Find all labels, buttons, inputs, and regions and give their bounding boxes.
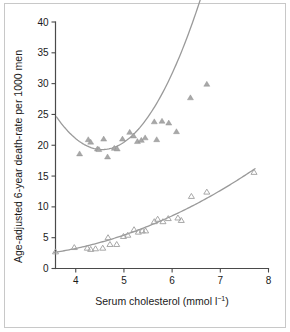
data-point-marker [173,129,179,134]
data-point-marker [127,129,133,134]
data-point-marker [101,136,107,141]
x-tick-label: 8 [266,275,272,286]
data-points-chd [52,169,257,253]
scatter-chart: 0510152025303540 45678 Age-adjusted 6-ye… [0,0,290,332]
y-tick-label: 5 [43,232,49,243]
data-point-marker [119,136,125,141]
y-tick-label: 0 [43,263,49,274]
data-points-all-cause [77,81,210,159]
x-tick-label: 5 [121,275,127,286]
data-point-marker [155,216,161,221]
data-point-marker [159,118,165,123]
x-tick-label: 7 [218,275,224,286]
data-point-marker [107,242,113,247]
figure-container: 0510152025303540 45678 Age-adjusted 6-ye… [0,0,290,332]
data-point-marker [166,120,172,125]
data-point-marker [92,246,98,251]
data-point-marker [154,137,160,142]
y-tick-label: 15 [37,171,49,182]
data-point-marker [187,95,193,100]
x-axis-tick-labels: 45678 [73,275,272,286]
data-point-marker [77,151,83,156]
x-axis-title: Serum cholesterol (mmol l−1) [95,295,228,307]
data-point-marker [204,189,210,194]
y-tick-label: 40 [37,17,49,28]
y-tick-label: 30 [37,78,49,89]
fit-curve-chd [54,169,255,253]
data-point-marker [188,193,194,198]
x-tick-label: 6 [169,275,175,286]
data-point-marker [142,135,148,140]
data-point-marker [105,235,111,240]
y-tick-label: 25 [37,109,49,120]
fit-curve-all-cause [56,0,253,150]
data-point-marker [151,119,157,124]
x-tick-label: 4 [73,275,79,286]
y-axis-title: Age-adjusted 6-year death-rate per 1000 … [12,50,24,263]
data-point-marker [114,242,120,247]
data-point-marker [105,154,111,159]
data-point-marker [204,81,210,86]
y-axis-tick-labels: 0510152025303540 [37,17,49,275]
data-point-marker [100,245,106,250]
y-tick-label: 10 [37,201,49,212]
y-tick-label: 35 [37,47,49,58]
y-tick-label: 20 [37,140,49,151]
